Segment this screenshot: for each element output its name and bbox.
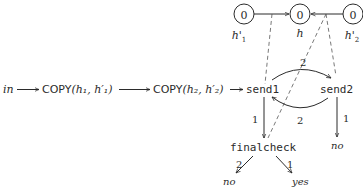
label-finalcheck-to-no: 2 <box>236 159 242 170</box>
register-h2-prime: 0 h'2 <box>343 4 363 44</box>
register-h1-prime-value: 0 <box>241 9 248 22</box>
arrow-send1-to-send2 <box>272 69 331 80</box>
register-h1-prime-label: h'1 <box>232 29 247 44</box>
register-h1-prime: 0 h'1 <box>232 4 254 44</box>
copy2-node: COPY(h₂, h′₂) <box>153 83 224 96</box>
label-send1-to-send2: 2 <box>300 57 306 68</box>
label-send1-to-finalcheck: 1 <box>252 114 258 125</box>
outcome-finalcheck-no: no <box>223 176 235 187</box>
dashed-link-send1 <box>265 14 272 84</box>
input-label: in <box>3 83 14 96</box>
register-h-label: h <box>296 27 303 40</box>
label-send2-to-no: 1 <box>343 113 349 124</box>
dashed-link-send2 <box>326 14 336 76</box>
copy1-node: COPY(h₁, h′₁) <box>42 83 113 96</box>
label-send2-to-send1: 2 <box>297 115 303 126</box>
register-h: 0 h <box>290 4 310 40</box>
arrow-send2-to-send1 <box>272 97 328 108</box>
register-h-value: 0 <box>297 9 304 22</box>
register-h2-prime-value: 0 <box>350 9 357 22</box>
outcome-finalcheck-yes: yes <box>291 176 309 187</box>
outcome-send2-no: no <box>331 140 343 151</box>
state-finalcheck: finalcheck <box>230 141 297 154</box>
state-send1: send1 <box>246 83 279 96</box>
label-finalcheck-to-yes: 1 <box>287 159 293 170</box>
flow-diagram: 0 h'1 0 h 0 h'2 in COPY(h₁, h′₁) COPY(h₂… <box>0 0 363 187</box>
register-h2-prime-label: h'2 <box>345 29 360 44</box>
state-send2: send2 <box>320 83 353 96</box>
